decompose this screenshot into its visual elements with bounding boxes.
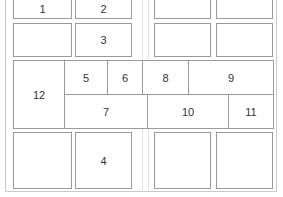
cell-second-right-b	[216, 23, 273, 57]
cell-label: 11	[245, 106, 256, 118]
cell-label: 9	[228, 72, 234, 84]
cell-3: 3	[75, 23, 132, 57]
cell-bottom-right-a	[154, 132, 211, 189]
cell-11: 11	[228, 94, 274, 129]
cell-label: 1	[39, 3, 45, 15]
cell-bottom-left	[13, 132, 72, 189]
cell-label: 3	[100, 34, 106, 46]
cell-2: 2	[75, 0, 132, 19]
cell-label: 5	[83, 72, 89, 84]
cell-label: 7	[103, 106, 109, 118]
cell-bottom-right-b	[216, 132, 273, 189]
cell-label: 6	[122, 72, 128, 84]
cell-second-right-a	[154, 23, 211, 57]
cell-1: 1	[13, 0, 72, 19]
cell-label: 2	[100, 3, 106, 15]
cell-label: 10	[182, 106, 194, 118]
cell-top-right-b	[216, 0, 273, 19]
cell-label: 4	[100, 155, 106, 167]
cell-10: 10	[147, 94, 229, 129]
cell-4: 4	[75, 132, 132, 189]
cell-label: 8	[162, 72, 168, 84]
cell-6: 6	[107, 60, 143, 95]
cell-9: 9	[188, 60, 274, 95]
cell-5: 5	[64, 60, 108, 95]
cell-8: 8	[142, 60, 189, 95]
cell-empty-left	[13, 23, 72, 57]
cell-7: 7	[64, 94, 148, 129]
cell-12: 12	[13, 60, 65, 129]
cell-label: 12	[33, 89, 45, 101]
cell-top-right-a	[154, 0, 211, 19]
